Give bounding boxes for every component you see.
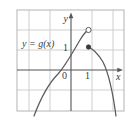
y-one-tick-label: 1: [63, 42, 68, 53]
origin-tick-label: 0: [62, 70, 67, 81]
curve-equation-label: y = g(x): [21, 38, 55, 50]
graph-canvas: y x 0 1 1 y = g(x): [0, 0, 136, 120]
x-axis-label: x: [115, 71, 121, 82]
graph-figure: y x 0 1 1 y = g(x): [0, 0, 136, 120]
y-axis-label: y: [63, 13, 69, 24]
filled-point-marker: [86, 45, 90, 49]
open-circle-hole-marker: [86, 27, 91, 32]
x-one-tick-label: 1: [85, 70, 90, 81]
